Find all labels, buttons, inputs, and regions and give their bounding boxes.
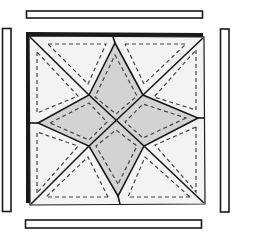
- quilt-block-diagram: [0, 0, 258, 235]
- right-strip: [221, 29, 230, 212]
- left-strip: [3, 29, 12, 212]
- top-strip: [27, 11, 203, 18]
- bottom-strip: [26, 220, 202, 228]
